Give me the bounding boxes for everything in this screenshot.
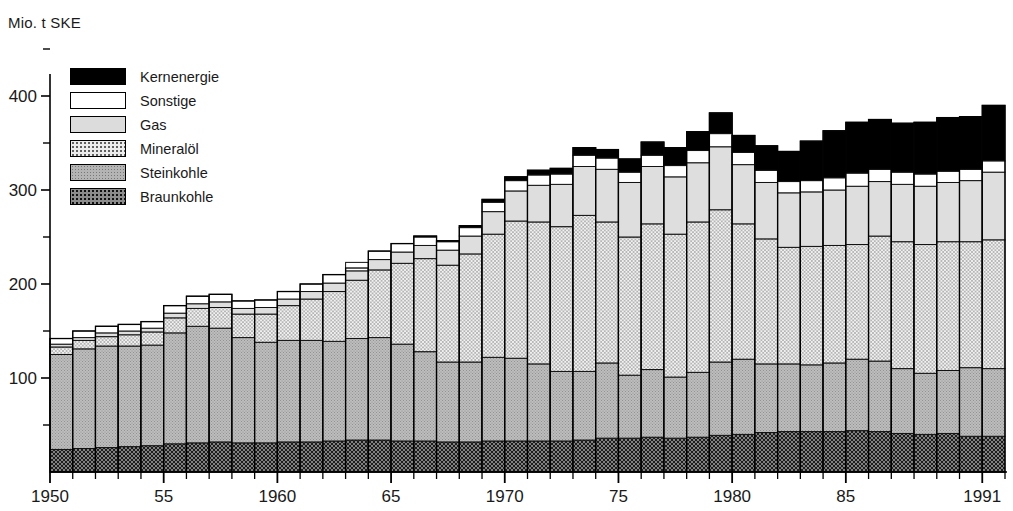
segment-kernenergie xyxy=(732,135,755,152)
bar-1973 xyxy=(573,148,596,472)
segment-sonstige xyxy=(186,296,209,304)
segment-braunkohle xyxy=(596,438,619,472)
segment-sonstige xyxy=(664,166,687,177)
segment-gas xyxy=(209,302,232,308)
segment-braunkohle xyxy=(209,442,232,472)
segment-mineraloel xyxy=(755,239,778,364)
segment-gas xyxy=(550,184,573,226)
bar-1951 xyxy=(73,331,96,472)
segment-sonstige xyxy=(641,155,664,166)
segment-steinkohle xyxy=(482,357,505,441)
segment-braunkohle xyxy=(164,444,187,472)
segment-mineraloel xyxy=(255,314,278,342)
segment-steinkohle xyxy=(50,355,73,450)
bar-1991 xyxy=(982,105,1005,472)
x-tick-label-1960: 1960 xyxy=(258,487,296,506)
legend-item-kernenergie: Kernenergie xyxy=(70,66,219,87)
segment-gas xyxy=(186,304,209,309)
x-tick-label-1970: 1970 xyxy=(486,487,524,506)
legend-swatch-mineraloel xyxy=(70,140,126,157)
segment-steinkohle xyxy=(277,340,300,442)
y-tick-label: 300 xyxy=(9,181,37,200)
segment-mineraloel xyxy=(300,299,323,340)
segment-steinkohle xyxy=(641,370,664,438)
segment-sonstige xyxy=(823,178,846,190)
segment-mineraloel xyxy=(209,308,232,329)
x-tick-label-1975: 75 xyxy=(609,487,628,506)
segment-mineraloel xyxy=(891,242,914,369)
segment-braunkohle xyxy=(437,442,460,472)
segment-steinkohle xyxy=(618,375,641,438)
bar-1965 xyxy=(391,244,414,472)
legend-label-braunkohle: Braunkohle xyxy=(140,189,213,205)
segment-steinkohle xyxy=(141,345,164,446)
segment-mineraloel xyxy=(505,221,528,358)
segment-sonstige xyxy=(732,152,755,164)
segment-gas xyxy=(528,185,551,222)
segment-sonstige xyxy=(414,237,437,245)
segment-gas xyxy=(664,177,687,234)
segment-sonstige xyxy=(846,173,869,186)
segment-kernenergie xyxy=(891,123,914,172)
segment-steinkohle xyxy=(232,338,255,443)
segment-steinkohle xyxy=(709,362,732,435)
segment-gas xyxy=(437,250,460,265)
bar-1982 xyxy=(778,151,801,472)
legend-label-kernenergie: Kernenergie xyxy=(140,69,219,85)
segment-kernenergie xyxy=(755,146,778,170)
bar-1989 xyxy=(937,118,960,472)
legend-swatch-gas xyxy=(70,116,126,133)
segment-sonstige xyxy=(550,174,573,184)
segment-sonstige xyxy=(164,306,187,314)
segment-mineraloel xyxy=(937,242,960,371)
segment-sonstige xyxy=(141,322,164,329)
segment-gas xyxy=(755,182,778,238)
bar-1970 xyxy=(505,177,528,472)
segment-braunkohle xyxy=(368,440,391,472)
segment-sonstige xyxy=(800,181,823,192)
segment-gas xyxy=(414,245,437,258)
bar-1961 xyxy=(300,284,323,472)
legend-item-gas: Gas xyxy=(70,114,219,135)
segment-mineraloel xyxy=(323,292,346,342)
segment-braunkohle xyxy=(505,441,528,472)
bar-1986 xyxy=(869,120,892,473)
bar-1972 xyxy=(550,168,573,472)
segment-gas xyxy=(300,292,323,300)
segment-sonstige xyxy=(300,284,323,292)
segment-mineraloel xyxy=(618,237,641,375)
segment-kernenergie xyxy=(869,120,892,170)
segment-mineraloel xyxy=(550,227,573,372)
segment-sonstige xyxy=(687,151,710,163)
segment-mineraloel xyxy=(141,332,164,345)
segment-steinkohle xyxy=(164,333,187,444)
segment-braunkohle xyxy=(982,436,1005,472)
segment-mineraloel xyxy=(732,224,755,359)
bar-1968 xyxy=(459,226,482,472)
segment-steinkohle xyxy=(186,326,209,443)
segment-mineraloel xyxy=(346,280,369,338)
bar-1952 xyxy=(95,326,118,472)
segment-kernenergie xyxy=(982,105,1005,160)
segment-braunkohle xyxy=(459,442,482,472)
segment-steinkohle xyxy=(73,349,96,449)
segment-kernenergie xyxy=(528,170,551,175)
legend-label-steinkohle: Steinkohle xyxy=(140,165,208,181)
segment-steinkohle xyxy=(755,364,778,433)
legend-label-sonstige: Sonstige xyxy=(140,93,196,109)
segment-steinkohle xyxy=(732,359,755,434)
segment-mineraloel xyxy=(118,335,141,346)
segment-kernenergie xyxy=(618,159,641,172)
chart-legend: KernenergieSonstigeGasMineralölSteinkohl… xyxy=(70,66,219,210)
bar-1956 xyxy=(186,296,209,472)
segment-sonstige xyxy=(255,300,278,308)
segment-braunkohle xyxy=(300,442,323,472)
segment-mineraloel xyxy=(164,318,187,333)
bar-1959 xyxy=(255,300,278,472)
segment-braunkohle xyxy=(95,448,118,472)
segment-braunkohle xyxy=(323,441,346,472)
legend-label-mineraloel: Mineralöl xyxy=(140,141,199,157)
segment-kernenergie xyxy=(914,122,937,174)
segment-mineraloel xyxy=(50,347,73,355)
legend-item-steinkohle: Steinkohle xyxy=(70,162,219,183)
